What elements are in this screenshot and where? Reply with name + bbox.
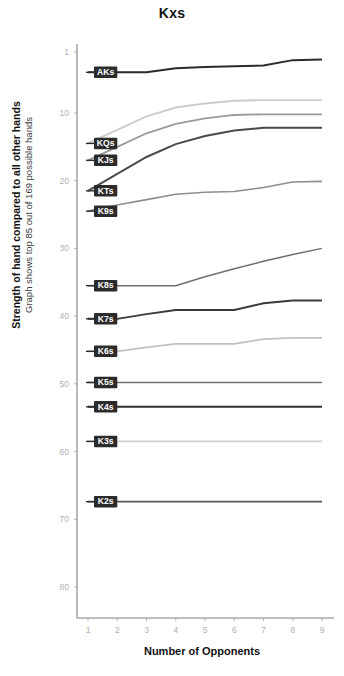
y-tick-label: 30 [60,243,70,253]
y-axis-ticks: 11020304050607080 [60,47,77,592]
series-label-text: KTs [98,186,114,196]
series-label-text: K7s [98,314,114,324]
series-lines [88,59,322,501]
series-label-text: KQs [97,138,115,148]
y-tick-label: 70 [60,514,70,524]
x-tick-label: 1 [86,625,91,635]
x-tick-label: 3 [144,625,149,635]
x-tick-label: 5 [203,625,208,635]
x-axis-ticks: 123456789 [86,618,325,635]
x-tick-label: 9 [320,625,325,635]
series-line-k7s [88,301,322,319]
x-tick-label: 2 [115,625,120,635]
y-tick-label: 1 [64,47,69,57]
series-label-text: K9s [98,206,114,216]
y-tick-label: 40 [60,311,70,321]
x-axis-title: Number of Opponents [60,645,344,657]
y-tick-label: 10 [60,108,70,118]
series-line-k8s [88,248,322,285]
x-tick-label: 8 [290,625,295,635]
series-label-text: AKs [97,67,114,77]
series-label-text: K8s [98,280,114,290]
series-line-kjs [88,114,322,160]
series-line-k9s [88,181,322,211]
x-tick-label: 4 [173,625,178,635]
series-line-aks [88,59,322,72]
y-tick-label: 60 [60,447,70,457]
series-label-text: K5s [98,377,114,387]
plot-area: 11020304050607080 123456789 AKsKQsKJsKTs… [0,0,344,676]
series-label-text: K4s [98,402,114,412]
series-label-text: K3s [98,436,114,446]
series-label-text: K6s [98,346,114,356]
y-tick-label: 80 [60,582,70,592]
series-label-text: KJs [98,155,114,165]
x-tick-label: 6 [232,625,237,635]
x-tick-label: 7 [261,625,266,635]
chart-container: Kxs Strength of hand compared to all oth… [0,0,344,676]
y-tick-label: 50 [60,379,70,389]
y-tick-label: 20 [60,176,70,186]
series-label-text: K2s [98,496,114,506]
series-line-kts [88,128,322,191]
series-line-k6s [88,338,322,352]
